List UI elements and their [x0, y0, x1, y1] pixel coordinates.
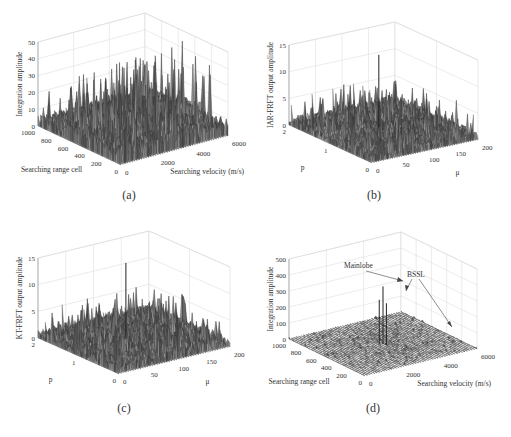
svg-text:0: 0 — [115, 168, 119, 176]
z-axis-label: Integration amplitude — [15, 51, 24, 116]
svg-text:600: 600 — [58, 145, 69, 153]
svg-text:200: 200 — [276, 304, 287, 312]
svg-text:20: 20 — [28, 89, 36, 97]
svg-text:30: 30 — [28, 72, 36, 80]
svg-text:50: 50 — [28, 39, 36, 47]
y-axis-label: μ — [206, 377, 210, 386]
x-axis-label: Searching range cell — [21, 165, 82, 174]
svg-text:150: 150 — [206, 358, 217, 366]
x-axis-label: p — [301, 163, 305, 172]
x-axis-label: p — [49, 375, 53, 384]
svg-text:15: 15 — [28, 255, 36, 263]
svg-text:100: 100 — [429, 156, 440, 164]
svg-text:200: 200 — [336, 372, 347, 380]
svg-text:50: 50 — [151, 371, 159, 379]
svg-text:40: 40 — [28, 55, 36, 63]
svg-text:4000: 4000 — [196, 150, 211, 158]
svg-text:600: 600 — [306, 357, 317, 365]
svg-text:2000: 2000 — [406, 371, 421, 379]
caption-d: (d) — [353, 401, 393, 416]
svg-text:0: 0 — [376, 167, 380, 175]
svg-text:0: 0 — [359, 379, 363, 387]
svg-text:100: 100 — [179, 365, 190, 373]
svg-text:0: 0 — [123, 378, 127, 386]
svg-text:0: 0 — [369, 380, 373, 388]
svg-text:5: 5 — [283, 95, 287, 103]
z-axis-label: KT-FRFT output amplitude — [15, 256, 24, 339]
svg-text:10: 10 — [28, 106, 36, 114]
svg-text:2: 2 — [283, 128, 287, 136]
caption-b: (b) — [354, 188, 394, 203]
y-axis-label: Searching velocity (m/s) — [170, 167, 244, 176]
svg-text:5: 5 — [32, 308, 36, 316]
svg-text:400: 400 — [276, 272, 287, 280]
caption-a: (a) — [109, 188, 149, 203]
x-axis-label: Searching range cell — [268, 377, 329, 386]
svg-text:150: 150 — [456, 150, 467, 158]
y-axis-label: μ — [456, 168, 460, 177]
svg-text:1: 1 — [324, 147, 328, 155]
svg-text:6000: 6000 — [232, 140, 247, 148]
svg-text:500: 500 — [276, 256, 287, 264]
svg-text:400: 400 — [321, 364, 332, 372]
svg-text:1: 1 — [72, 359, 76, 367]
svg-text:4000: 4000 — [444, 362, 459, 370]
svg-text:0: 0 — [113, 377, 117, 385]
panel-b: 051015210050100150200IAR-FRFT output amp… — [256, 0, 511, 218]
svg-text:10: 10 — [28, 281, 36, 289]
svg-text:1000: 1000 — [21, 129, 36, 137]
svg-text:50: 50 — [403, 161, 411, 169]
svg-text:200: 200 — [234, 351, 245, 359]
caption-c: (c) — [104, 401, 144, 416]
surface-plot-b: 051015210050100150200IAR-FRFT output amp… — [256, 0, 511, 218]
panel-a: 0102030405010008006004002000020004000600… — [0, 0, 255, 218]
svg-text:2: 2 — [32, 341, 36, 349]
svg-text:200: 200 — [482, 144, 493, 152]
svg-text:BSSL: BSSL — [407, 270, 425, 279]
svg-text:800: 800 — [41, 137, 52, 145]
panel-c: 051015210050100150200KT-FRFT output ampl… — [0, 219, 255, 437]
y-axis-label: Searching velocity (m/s) — [417, 379, 491, 388]
svg-text:10: 10 — [279, 68, 287, 76]
panel-d: 0100200300400500100080060040020000200040… — [256, 219, 511, 437]
svg-text:800: 800 — [291, 349, 302, 357]
svg-text:15: 15 — [279, 42, 287, 50]
svg-text:0: 0 — [366, 166, 370, 174]
svg-text:Mainlobe: Mainlobe — [344, 261, 373, 270]
svg-text:100: 100 — [276, 320, 287, 328]
surface-plot-a: 0102030405010008006004002000020004000600… — [0, 0, 255, 218]
svg-text:300: 300 — [276, 288, 287, 296]
z-axis-label: IAR-FRFT output amplitude — [266, 41, 275, 128]
svg-text:400: 400 — [74, 152, 85, 160]
z-axis-label: Integration amplitude — [266, 266, 275, 331]
svg-text:1000: 1000 — [272, 342, 287, 350]
svg-text:6000: 6000 — [481, 353, 496, 361]
svg-text:200: 200 — [91, 160, 102, 168]
svg-text:0: 0 — [125, 169, 129, 177]
